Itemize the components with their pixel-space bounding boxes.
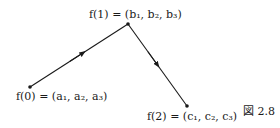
label-f1: f(1) = (b₁, b₂, b₃) bbox=[89, 9, 182, 20]
arrow-icon bbox=[148, 52, 158, 65]
point-f2 bbox=[185, 104, 189, 108]
figure-caption: 図 2.8 bbox=[243, 102, 275, 118]
point-f1 bbox=[126, 22, 130, 26]
point-f0 bbox=[28, 85, 32, 89]
label-f0: f(0) = (a₁, a₂, a₃) bbox=[16, 91, 107, 102]
arrow-icon bbox=[70, 53, 83, 61]
label-f2: f(2) = (c₁, c₂, c₃) bbox=[147, 111, 237, 122]
edge-f1-to-f2 bbox=[128, 24, 187, 106]
edge-f0-to-f1 bbox=[30, 24, 128, 87]
